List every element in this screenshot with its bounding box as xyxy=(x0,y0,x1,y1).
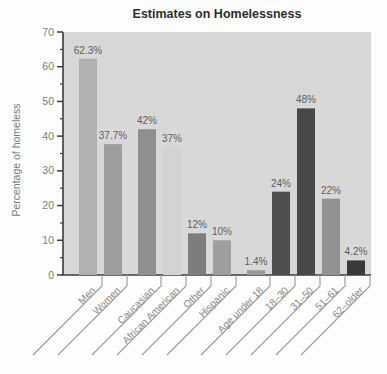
bar-value-label: 4.2% xyxy=(345,246,368,257)
bar-caucasian xyxy=(138,129,156,275)
bar-value-label: 42% xyxy=(137,115,157,126)
chart-title: Estimates on Homelessness xyxy=(133,7,302,21)
bar-other xyxy=(188,233,206,275)
y-tick-label: 70 xyxy=(42,26,54,38)
bar-women xyxy=(104,144,122,275)
category-label: Women xyxy=(90,285,122,317)
bar-value-label: 37% xyxy=(162,133,182,144)
homelessness-bar-chart: Estimates on HomelessnessPercentage of h… xyxy=(0,0,387,374)
y-tick-label: 60 xyxy=(42,60,54,72)
chart-canvas: Estimates on HomelessnessPercentage of h… xyxy=(0,0,387,374)
bar-51-61 xyxy=(322,199,340,275)
y-tick-label: 10 xyxy=(42,234,54,246)
bar-value-label: 48% xyxy=(296,94,316,105)
bar-31-50 xyxy=(297,108,315,275)
bar-value-label: 37.7% xyxy=(99,130,127,141)
bar-value-label: 24% xyxy=(271,178,291,189)
bar-men xyxy=(79,59,97,275)
y-tick-label: 20 xyxy=(42,199,54,211)
y-tick-label: 0 xyxy=(48,269,54,281)
y-axis-title: Percentage of homeless xyxy=(10,103,22,216)
bar-value-label: 62.3% xyxy=(74,45,102,56)
bar-african-american xyxy=(163,147,181,275)
category-label: Men xyxy=(76,285,98,307)
y-tick-label: 50 xyxy=(42,95,54,107)
bar-age-under-18 xyxy=(247,270,265,275)
bar-value-label: 22% xyxy=(321,185,341,196)
y-tick-label: 40 xyxy=(42,130,54,142)
bar-hispanic xyxy=(213,240,231,275)
bar-value-label: 1.4% xyxy=(245,256,268,267)
bar-18-30 xyxy=(272,192,290,275)
bar-value-label: 10% xyxy=(212,226,232,237)
bar-62-older xyxy=(347,260,365,275)
bar-value-label: 12% xyxy=(187,219,207,230)
y-tick-label: 30 xyxy=(42,164,54,176)
